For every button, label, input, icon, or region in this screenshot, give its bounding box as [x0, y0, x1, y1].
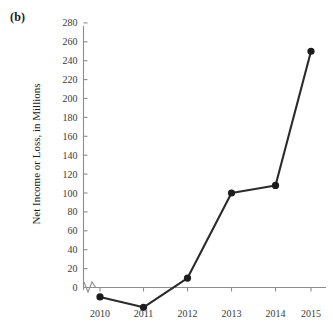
data-point-2015	[307, 48, 314, 55]
y-tick-label-120: 120	[63, 169, 78, 180]
y-tick-label-140: 140	[63, 150, 78, 161]
y-tick-label-280: 280	[63, 17, 78, 28]
y-tick-label-80: 80	[68, 206, 78, 217]
x-tick-label-2015: 2015	[301, 308, 321, 319]
y-axis-tick-labels: 020406080100120140160180200220240260280	[63, 17, 78, 293]
y-tick-label-100: 100	[63, 188, 78, 199]
y-tick-label-200: 200	[63, 93, 78, 104]
line-chart-plot: 020406080100120140160180200220240260280 …	[0, 0, 333, 336]
x-axis-tick-labels: 201020112012201320142015	[90, 308, 321, 319]
y-tick-label-0: 0	[73, 282, 78, 293]
data-point-2011	[140, 304, 147, 311]
series-data-points	[96, 48, 314, 311]
y-tick-label-40: 40	[68, 244, 78, 255]
y-tick-label-60: 60	[68, 225, 78, 236]
data-point-2013	[228, 189, 235, 196]
x-tick-label-2013: 2013	[222, 308, 242, 319]
x-axis-tick-marks	[100, 288, 311, 292]
y-tick-label-180: 180	[63, 112, 78, 123]
y-tick-label-240: 240	[63, 55, 78, 66]
series-line-net-income	[100, 51, 311, 307]
figure-panel: (b) Net Income or Loss, in Millions 0204…	[0, 0, 333, 336]
data-point-2010	[96, 293, 103, 300]
data-point-2014	[272, 182, 279, 189]
y-axis-tick-marks	[84, 23, 88, 288]
x-tick-label-2010: 2010	[90, 308, 110, 319]
y-tick-label-260: 260	[63, 36, 78, 47]
y-tick-label-220: 220	[63, 74, 78, 85]
data-point-2012	[184, 274, 191, 281]
y-tick-label-160: 160	[63, 131, 78, 142]
y-tick-label-20: 20	[68, 263, 78, 274]
x-tick-label-2012: 2012	[178, 308, 198, 319]
x-tick-label-2014: 2014	[266, 308, 286, 319]
